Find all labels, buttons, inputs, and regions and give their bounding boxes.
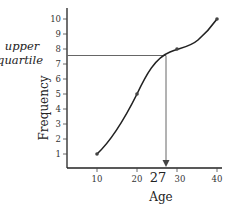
upper-quartile-age-label: 27 bbox=[150, 170, 167, 185]
data-point bbox=[135, 92, 139, 96]
y-tick-label: 1 bbox=[56, 149, 61, 159]
arrow-down-icon bbox=[163, 160, 170, 167]
x-tick-label: 20 bbox=[132, 174, 143, 184]
y-tick-label: 4 bbox=[56, 104, 61, 114]
cumulative-frequency-chart: 1 2 3 4 5 6 7 8 9 10 10 20 30 40 Age Fre… bbox=[0, 0, 227, 207]
x-axis-title: Age bbox=[148, 190, 172, 204]
x-tick-label: 10 bbox=[92, 174, 103, 184]
upper-quartile-label: quartile bbox=[0, 53, 43, 67]
y-tick-labels: 1 2 3 4 5 6 7 8 9 10 bbox=[50, 14, 61, 159]
data-point bbox=[215, 17, 219, 21]
cumulative-frequency-curve bbox=[97, 19, 217, 154]
y-tick-label: 5 bbox=[56, 89, 61, 99]
x-tick-label: 40 bbox=[212, 174, 223, 184]
y-tick-label: 7 bbox=[56, 59, 61, 69]
data-point bbox=[95, 152, 99, 156]
y-tick-label: 6 bbox=[56, 74, 61, 84]
y-tick-label: 2 bbox=[56, 134, 61, 144]
y-tick-label: 3 bbox=[56, 119, 61, 129]
y-tick-label: 10 bbox=[50, 14, 61, 24]
x-tick-label: 30 bbox=[175, 174, 186, 184]
y-tick-label: 8 bbox=[56, 44, 61, 54]
data-point bbox=[175, 47, 179, 51]
y-axis-title: Frequency bbox=[37, 75, 51, 140]
upper-quartile-label: upper bbox=[5, 39, 41, 53]
y-tick-label: 9 bbox=[56, 29, 61, 39]
